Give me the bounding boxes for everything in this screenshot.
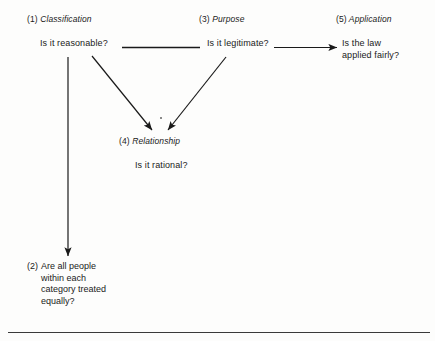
node-equal-treatment-line4: equally? bbox=[41, 296, 106, 308]
node-application-question-line2: applied fairly? bbox=[342, 50, 399, 62]
node-relationship-label-text: Relationship bbox=[132, 136, 180, 146]
node-purpose-label-text: Purpose bbox=[212, 14, 244, 24]
node-application-question: Is the law applied fairly? bbox=[342, 38, 399, 61]
node-equal-treatment: (2) Are all people within each category … bbox=[27, 261, 106, 307]
node-relationship-number: (4) bbox=[119, 136, 130, 146]
node-classification-number: (1) bbox=[27, 14, 38, 24]
node-classification-question: Is it reasonable? bbox=[40, 38, 108, 50]
node-purpose-label: (3) Purpose bbox=[199, 14, 269, 25]
node-relationship: (4) Relationship Is it rational? bbox=[119, 136, 188, 172]
node-purpose-number: (3) bbox=[199, 14, 210, 24]
node-equal-treatment-question: (2) Are all people within each category … bbox=[27, 261, 106, 307]
node-equal-treatment-number: (2) bbox=[27, 261, 38, 307]
node-relationship-question: Is it rational? bbox=[135, 160, 188, 172]
node-application-question-line1: Is the law bbox=[342, 38, 399, 50]
node-application-label: (5) Application bbox=[336, 14, 399, 25]
node-application: (5) Application Is the law applied fairl… bbox=[336, 14, 399, 61]
ink-speck bbox=[160, 117, 162, 119]
node-application-label-text: Application bbox=[349, 14, 392, 24]
diagram-canvas: (1) Classification Is it reasonable? (3)… bbox=[0, 0, 435, 341]
edge-classification-to-relationship bbox=[92, 56, 152, 130]
edge-purpose-to-relationship bbox=[168, 57, 226, 130]
node-classification: (1) Classification Is it reasonable? bbox=[27, 14, 108, 50]
node-application-number: (5) bbox=[336, 14, 347, 24]
node-equal-treatment-line3: category treated bbox=[41, 284, 106, 296]
node-equal-treatment-line1: Are all people bbox=[41, 261, 106, 273]
node-equal-treatment-line2: within each bbox=[41, 273, 106, 285]
node-classification-label: (1) Classification bbox=[27, 14, 108, 25]
node-relationship-label: (4) Relationship bbox=[119, 136, 188, 147]
footer-divider bbox=[8, 332, 430, 333]
node-purpose: (3) Purpose Is it legitimate? bbox=[199, 14, 269, 50]
node-equal-treatment-lines: Are all people within each category trea… bbox=[41, 261, 106, 307]
node-classification-label-text: Classification bbox=[40, 14, 91, 24]
node-purpose-question: Is it legitimate? bbox=[207, 38, 269, 50]
